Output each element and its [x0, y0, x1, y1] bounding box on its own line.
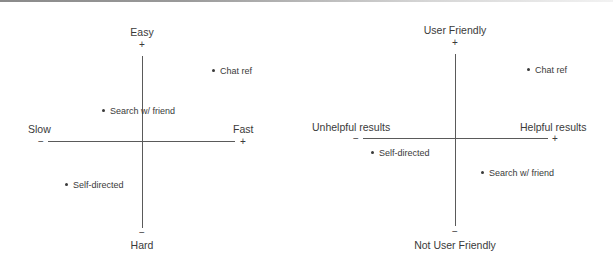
y-axis	[455, 54, 456, 226]
dot-marker	[371, 151, 374, 154]
x-negative-label: Unhelpful results	[312, 121, 390, 133]
x-positive-label: Helpful results	[520, 121, 587, 133]
x-negative-sign: −	[353, 134, 359, 144]
dot-marker	[481, 171, 484, 174]
dot-marker	[527, 68, 530, 71]
y-positive-label: User Friendly	[424, 24, 486, 36]
x-positive-sign: +	[552, 134, 558, 144]
helpfulness-friendliness-chart: User Friendly + − Not User Friendly Unhe…	[0, 0, 613, 277]
y-positive-sign: +	[452, 38, 458, 48]
point-search-with-friend: Search w/ friend	[481, 169, 554, 178]
point-chat-ref: Chat ref	[527, 66, 567, 75]
y-negative-label: Not User Friendly	[414, 239, 496, 251]
x-axis	[363, 138, 548, 139]
point-self-directed: Self-directed	[371, 149, 430, 158]
y-negative-sign: −	[452, 227, 458, 237]
